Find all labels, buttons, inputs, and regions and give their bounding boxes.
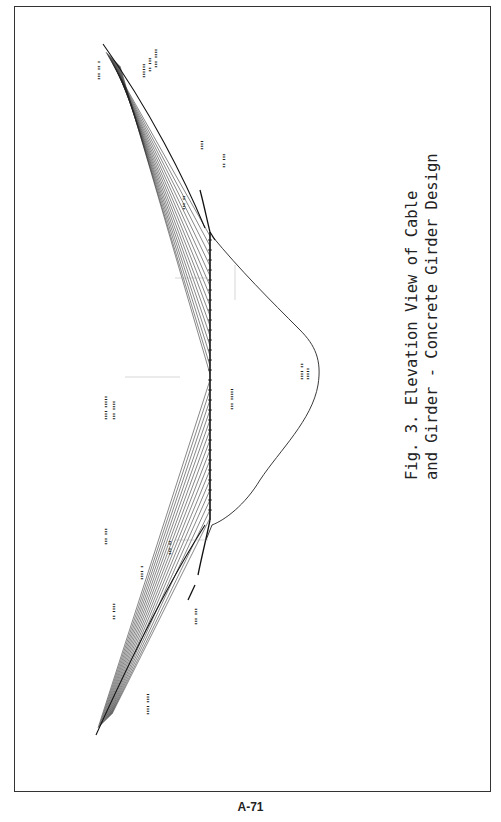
ground-profile	[206, 236, 319, 540]
dimension-leaders	[125, 265, 235, 540]
annotation-label: ▮▮▮ ▮▮ ▮	[97, 61, 102, 80]
annotation-label: ▮▮▮▮▮▮	[142, 64, 147, 78]
caption-line-2: and Girder - Concrete Girder Design	[422, 153, 442, 480]
annotation-label: ▮▮▮▮ ▮▮▮▮	[146, 693, 151, 715]
annotation-label: ▮▮▮▮▮	[306, 368, 311, 380]
annotation-label: ▮▮▮ ▮▮▮▮	[112, 401, 117, 420]
annotation-label: ▮▮▮ ▮▮▮	[104, 528, 109, 545]
annotation-label: ▮▮▮▮	[200, 140, 205, 150]
upper-cable-fan	[103, 44, 210, 374]
figure-caption: Fig. 3. Elevation View of Cable and Gird…	[402, 153, 442, 480]
page-number: A-71	[0, 800, 501, 814]
annotation-label: ▮▮▮ ▮▮▮	[194, 608, 199, 625]
annotation-label: ▮▮▮▮ ▮	[140, 566, 145, 580]
annotation-label: ▮▮▮ ▮▮	[168, 541, 173, 555]
girder-deck	[208, 232, 212, 520]
annotation-label: ▮▮▮ ▮▮	[182, 196, 187, 210]
annotation-label: ▮▮▮▮ ▮▮	[300, 363, 305, 380]
annotation-label: ▮▮ ▮▮▮	[222, 154, 227, 168]
annotation-label: ▮▮ ▮▮▮▮	[112, 603, 117, 620]
annotation-label: ▮▮ ▮▮▮	[148, 58, 153, 72]
lower-cable-fan	[96, 380, 210, 735]
annotation-label: ▮▮▮ ▮▮▮▮	[154, 49, 159, 68]
annotation-label: ▮▮▮ ▮▮▮▮▮	[230, 388, 235, 410]
caption-line-1: Fig. 3. Elevation View of Cable	[402, 153, 422, 480]
annotation-label: ▮▮▮▮ ▮▮▮▮▮	[104, 396, 109, 420]
upper-abutment	[200, 190, 215, 240]
